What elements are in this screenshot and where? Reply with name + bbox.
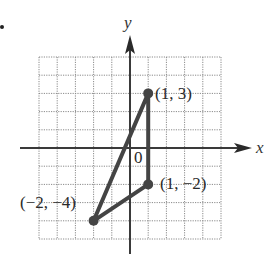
point-label-b: (1, −2) <box>160 174 206 193</box>
x-axis-label: x <box>255 138 264 157</box>
vertex-point <box>89 216 99 226</box>
vertex-point <box>143 179 153 189</box>
point-label-c: (−2, −4) <box>20 193 76 212</box>
y-axis-label: y <box>122 13 132 32</box>
bullet-dot <box>0 25 4 29</box>
triangle <box>89 88 154 225</box>
point-label-a: (1, 3) <box>155 84 192 103</box>
coordinate-plane: x y 0 (1, 3) (1, −2) (−2, −4) <box>0 0 277 263</box>
vertex-point <box>143 88 153 98</box>
origin-label: 0 <box>134 148 143 167</box>
